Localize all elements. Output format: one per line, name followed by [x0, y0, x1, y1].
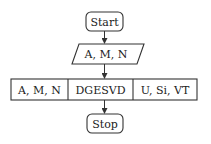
start-node: Start: [86, 12, 123, 31]
process-function-cell: DGESVD: [76, 84, 126, 97]
stop-label: Stop: [92, 118, 118, 131]
process-output-cell: U, Si, VT: [141, 84, 190, 97]
start-label: Start: [90, 16, 119, 29]
process-node: A, M, N DGESVD U, Si, VT: [11, 79, 197, 100]
process-input-cell: A, M, N: [17, 84, 61, 97]
input-node: A, M, N: [72, 44, 144, 64]
input-label: A, M, N: [84, 48, 128, 61]
flowchart: Start A, M, N A, M, N DGESVD U, Si, VT S…: [0, 0, 211, 144]
stop-node: Stop: [87, 114, 123, 133]
